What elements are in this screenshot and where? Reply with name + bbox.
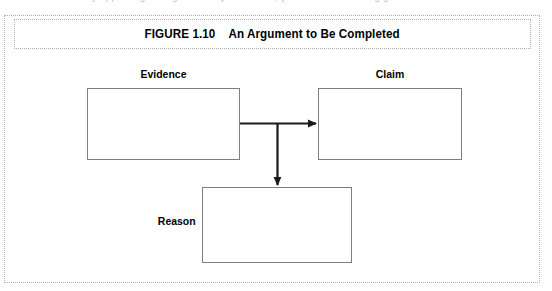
node-box-evidence[interactable] (87, 88, 240, 160)
argument-diagram: Evidence Claim Reason (0, 0, 552, 291)
node-box-claim[interactable] (318, 88, 462, 160)
node-box-reason[interactable] (202, 187, 352, 263)
node-label-claim: Claim (322, 68, 459, 80)
node-label-reason: Reason (104, 215, 195, 227)
node-label-evidence: Evidence (91, 68, 236, 80)
